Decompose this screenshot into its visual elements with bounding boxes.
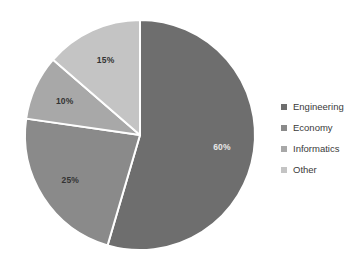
pie-slice-label: 25%	[61, 175, 79, 185]
legend-swatch-icon	[281, 125, 287, 131]
pie-slice-label: 15%	[97, 55, 115, 65]
chart-legend: EngineeringEconomyInformaticsOther	[281, 96, 363, 180]
pie-svg: 60%25%10%15%	[0, 0, 280, 268]
legend-item[interactable]: Other	[281, 159, 363, 180]
legend-item-label: Economy	[293, 123, 333, 133]
legend-item[interactable]: Informatics	[281, 138, 363, 159]
legend-swatch-icon	[281, 167, 287, 173]
pie-plot-area: 60%25%10%15%	[0, 0, 280, 268]
legend-item[interactable]: Economy	[281, 117, 363, 138]
legend-swatch-icon	[281, 146, 287, 152]
pie-slice-label: 60%	[213, 142, 231, 152]
pie-chart: 60%25%10%15% EngineeringEconomyInformati…	[0, 0, 363, 268]
pie-slices	[25, 20, 255, 250]
legend-item-label: Other	[293, 165, 317, 175]
legend-item[interactable]: Engineering	[281, 96, 363, 117]
legend-item-label: Engineering	[293, 102, 344, 112]
legend-swatch-icon	[281, 104, 287, 110]
pie-slice-label: 10%	[56, 96, 74, 106]
legend-item-label: Informatics	[293, 144, 339, 154]
